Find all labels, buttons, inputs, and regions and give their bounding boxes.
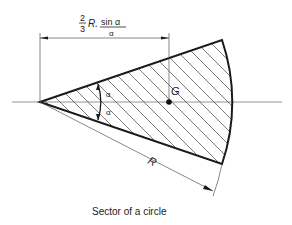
radius-label: R	[146, 154, 159, 168]
formula-trig-num: sin α	[101, 17, 120, 27]
formula-radius: R.	[88, 18, 98, 29]
angle-label-upper: α	[106, 90, 111, 99]
formula-den: 3	[80, 24, 85, 34]
angle-label-lower: α	[106, 108, 111, 117]
radius-extension-arc	[213, 164, 222, 196]
arrow-right-icon	[161, 37, 169, 40]
radius-arrow-icon	[203, 185, 213, 191]
arrow-left-icon	[40, 37, 48, 40]
centroid-label: G	[171, 85, 180, 97]
sector-diagram: 2 3 R. sin α α α α G R Sector of a circl…	[0, 0, 292, 225]
hatching	[0, 20, 292, 200]
formula-num: 2	[80, 13, 85, 23]
figure-caption: Sector of a circle	[92, 206, 167, 217]
radius-dim-line	[40, 102, 213, 191]
centroid-dot	[166, 99, 172, 105]
formula-trig-den: α	[109, 29, 114, 38]
